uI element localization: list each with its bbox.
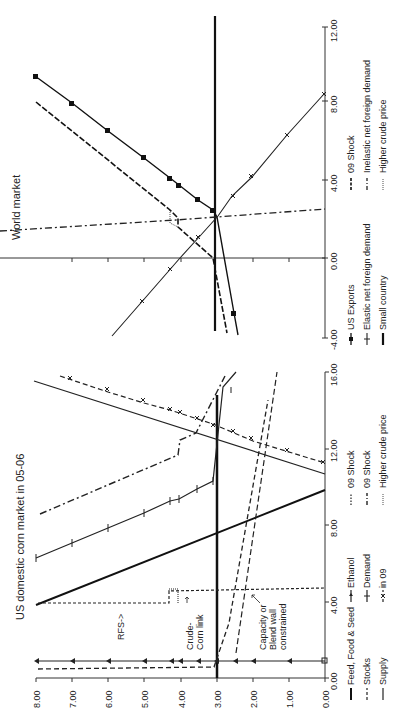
svg-text:09 Shock: 09 Shock <box>346 135 356 173</box>
corn-legend: Feed, Food & Seed Stocks Supply Ethanol … <box>346 414 388 700</box>
series-world-shock <box>36 102 227 333</box>
series-elastic-demand <box>112 92 326 336</box>
annotation-capacity-3: constrained <box>278 603 288 650</box>
svg-text:Feed, Food & Seed: Feed, Food & Seed <box>346 607 356 685</box>
annotation-rfs: RFS-> <box>116 614 126 640</box>
svg-text:Elastic net foreign demand: Elastic net foreign demand <box>362 223 372 330</box>
svg-text:0.00: 0.00 <box>329 672 339 690</box>
svg-text:Inelastic net foreign demand: Inelastic net foreign demand <box>362 60 372 173</box>
svg-text:12.00: 12.00 <box>329 439 339 462</box>
svg-text:Higher crude price: Higher crude price <box>378 414 388 488</box>
series-ffs <box>36 490 325 605</box>
world-legend: US Exports Elastic net foreign demand Sm… <box>346 60 388 345</box>
svg-text:8.00: 8.00 <box>329 519 339 537</box>
quantity-axis-ticks: 0.00 4.00 8.00 12.00 16.00 <box>329 363 339 690</box>
svg-text:7.00: 7.00 <box>68 690 78 708</box>
series-stocks <box>38 400 268 669</box>
chart-page: US domestic corn market in 05-06 8.00 7.… <box>0 0 404 710</box>
series-world-higher-crude <box>170 210 178 227</box>
svg-text:0.00: 0.00 <box>329 252 339 270</box>
annotation-crude-corn-2: Corn link <box>195 614 205 650</box>
annotation-crude-corn-1: Crude- <box>185 622 195 650</box>
svg-text:-4.00: -4.00 <box>329 329 339 350</box>
svg-text:1.00: 1.00 <box>285 690 295 708</box>
svg-text:3.00: 3.00 <box>213 690 223 708</box>
svg-text:2.00: 2.00 <box>249 690 259 708</box>
series-ethanol <box>34 658 327 664</box>
svg-text:Ethanol: Ethanol <box>346 557 356 588</box>
annotation-capacity-1: Capacity or <box>258 604 268 650</box>
series-inelastic-demand <box>0 209 325 231</box>
svg-text:6.00: 6.00 <box>104 690 114 708</box>
svg-text:8.00: 8.00 <box>32 690 42 708</box>
svg-text:09 Shock: 09 Shock <box>346 450 356 488</box>
svg-text:Small country: Small country <box>378 275 388 330</box>
chart-canvas: US domestic corn market in 05-06 8.00 7.… <box>0 0 404 710</box>
svg-text:4.00: 4.00 <box>329 174 339 192</box>
annotation-arrows <box>185 595 260 603</box>
annotation-capacity-2: Blend wall <box>268 609 278 650</box>
svg-text:4.00: 4.00 <box>177 690 187 708</box>
svg-text:12.00: 12.00 <box>329 19 339 42</box>
series-demand-shock <box>40 376 225 514</box>
svg-text:Supply: Supply <box>378 657 388 685</box>
svg-text:0.00: 0.00 <box>321 690 331 708</box>
series-in09 <box>60 376 325 464</box>
series-supply <box>34 381 325 474</box>
series-ffs-shock <box>38 588 325 603</box>
corn-chart-title: US domestic corn market in 05-06 <box>14 454 26 620</box>
svg-text:5.00: 5.00 <box>140 690 150 708</box>
corn-market-chart: US domestic corn market in 05-06 8.00 7.… <box>14 363 388 708</box>
svg-text:Stocks: Stocks <box>362 657 372 685</box>
svg-text:8.00: 8.00 <box>329 95 339 113</box>
world-quantity-ticks: -4.00 0.00 4.00 8.00 12.00 <box>329 19 339 350</box>
price-axis-ticks: 8.00 7.00 6.00 5.00 4.00 3.00 2.00 1.00 … <box>32 690 331 708</box>
svg-text:in 09: in 09 <box>378 568 388 588</box>
series-us-exports <box>33 74 238 335</box>
world-market-chart: World market -4.00 0.00 4.00 8.00 12.00 <box>0 16 388 350</box>
svg-text:09 Shock: 09 Shock <box>362 450 372 488</box>
series-demand <box>36 372 236 562</box>
svg-text:US Exports: US Exports <box>346 284 356 330</box>
svg-text:4.00: 4.00 <box>329 596 339 614</box>
svg-text:Higher crude price: Higher crude price <box>378 99 388 173</box>
svg-text:16.00: 16.00 <box>329 363 339 386</box>
svg-text:Demand: Demand <box>362 554 372 588</box>
